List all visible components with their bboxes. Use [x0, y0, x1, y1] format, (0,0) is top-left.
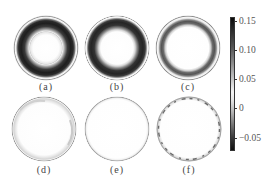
panel-b — [85, 16, 150, 81]
figure: (a) (b) (c) (d) (e) (f) 0.15 0.10 0.05 0… — [0, 0, 277, 184]
colorbar-label-0: 0 — [239, 103, 244, 113]
panel-c — [156, 16, 221, 81]
colorbar-label-0.05: 0.05 — [239, 74, 256, 84]
colorbar-tick — [234, 21, 237, 22]
panel-label-a: (a) — [26, 81, 66, 92]
ring-plot-e — [85, 97, 150, 162]
panel-label-d: (d) — [24, 164, 64, 175]
colorbar-label-0.10: 0.10 — [239, 45, 256, 55]
colorbar-label-neg0.05: −0.05 — [239, 133, 261, 143]
ring-plot-c — [156, 16, 221, 81]
colorbar-tick — [234, 79, 237, 80]
panel-label-f: (f) — [169, 164, 209, 175]
colorbar-tick — [234, 50, 237, 51]
panel-e — [85, 97, 150, 162]
panel-label-e: (e) — [97, 164, 137, 175]
ring-plot-a — [14, 16, 79, 81]
colorbar-tick — [234, 108, 237, 109]
ring-plot-b — [85, 16, 150, 81]
colorbar-gradient — [230, 17, 235, 151]
panel-plots — [0, 0, 277, 184]
colorbar-tick — [234, 138, 237, 139]
panel-label-c: (c) — [168, 81, 208, 92]
panel-f — [157, 97, 222, 162]
colorbar-label-0.15: 0.15 — [239, 16, 256, 26]
ring-plot-d — [12, 97, 77, 162]
panel-a — [14, 16, 79, 81]
panel-d — [12, 97, 77, 162]
panel-label-b: (b) — [97, 81, 137, 92]
